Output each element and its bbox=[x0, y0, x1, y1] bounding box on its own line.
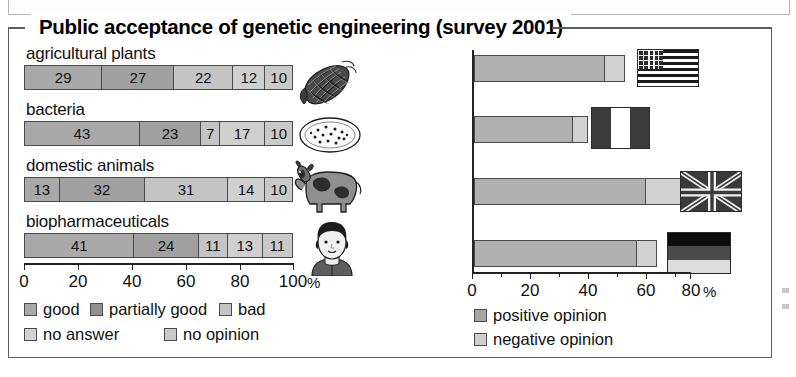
left-axis-tick-80 bbox=[240, 263, 241, 270]
left-axis-label-80: 80 bbox=[230, 272, 250, 292]
legend-swatch-no-opinion bbox=[164, 328, 177, 341]
category-label-biopharmaceuticals: biopharmaceuticals bbox=[26, 212, 169, 232]
segment-negative-opinion bbox=[637, 240, 657, 267]
right-axis-tick-70 bbox=[675, 272, 676, 277]
stacked-bar-bacteria: 43 23 7 17 10 bbox=[24, 121, 293, 146]
left-axis-label-40: 40 bbox=[122, 272, 142, 292]
segment-positive-opinion bbox=[474, 116, 573, 143]
legend-label-positive-opinion: positive opinion bbox=[493, 306, 607, 325]
flag-usa-icon bbox=[637, 49, 699, 87]
country-bar-uk bbox=[474, 178, 684, 205]
segment-negative-opinion bbox=[605, 55, 625, 82]
country-bar-usa bbox=[474, 55, 625, 82]
category-label-domestic-animals: domestic animals bbox=[26, 156, 154, 176]
segment-no-opinion: 11 bbox=[263, 234, 292, 257]
right-axis-tick-40 bbox=[588, 272, 589, 279]
legend-label-no-answer: no answer bbox=[43, 325, 119, 344]
left-axis-label-100: 100 bbox=[276, 272, 310, 292]
segment-bad: 11 bbox=[199, 234, 228, 257]
segment-no-answer: 14 bbox=[228, 178, 265, 201]
right-axis-label-40: 40 bbox=[578, 281, 598, 301]
left-axis-line bbox=[24, 263, 294, 265]
right-axis-tick-80 bbox=[690, 272, 691, 279]
segment-positive-opinion bbox=[474, 178, 646, 205]
legend-swatch-negative-opinion bbox=[474, 333, 487, 346]
legend-item-positive-opinion: positive opinion bbox=[474, 306, 607, 325]
legend-label-no-opinion: no opinion bbox=[183, 325, 259, 344]
legend-swatch-partially-good bbox=[90, 303, 103, 316]
right-axis-line bbox=[472, 272, 691, 274]
segment-no-opinion: 10 bbox=[265, 178, 292, 201]
segment-bad: 22 bbox=[174, 66, 233, 89]
right-axis-tick-30 bbox=[559, 272, 560, 277]
right-axis-tick-20 bbox=[530, 272, 531, 279]
segment-good: 29 bbox=[25, 66, 102, 89]
stacked-bar-biopharmaceuticals: 41 24 11 13 11 bbox=[24, 233, 293, 258]
country-bar-france bbox=[474, 116, 588, 143]
legend-item-no-answer: no answer bbox=[24, 325, 119, 344]
segment-positive-opinion bbox=[474, 55, 605, 82]
left-axis-tick-40 bbox=[132, 263, 133, 270]
figure-title: Public acceptance of genetic engineering… bbox=[31, 13, 571, 41]
legend-item-good: good bbox=[24, 300, 80, 319]
left-axis-tick-100 bbox=[293, 263, 294, 270]
right-axis-label-60: 60 bbox=[636, 281, 656, 301]
segment-partially-good: 27 bbox=[102, 66, 174, 89]
flag-germany-icon bbox=[667, 232, 731, 274]
stacked-bar-domestic-animals: 13 32 31 14 10 bbox=[24, 177, 293, 202]
segment-no-answer: 17 bbox=[220, 122, 265, 145]
petri-dish-icon bbox=[298, 114, 362, 156]
left-axis-unit: % bbox=[307, 274, 320, 291]
segment-good: 13 bbox=[25, 178, 60, 201]
right-axis-vertical bbox=[472, 50, 474, 272]
flag-uk-icon bbox=[680, 171, 742, 212]
left-axis-label-20: 20 bbox=[68, 272, 88, 292]
legend-item-bad: bad bbox=[219, 300, 266, 319]
legend-label-negative-opinion: negative opinion bbox=[493, 330, 613, 349]
segment-no-answer: 12 bbox=[233, 66, 265, 89]
segment-no-opinion: 10 bbox=[265, 122, 292, 145]
right-axis-tick-60 bbox=[646, 272, 647, 279]
legend-swatch-bad bbox=[219, 303, 232, 316]
right-axis-unit: % bbox=[703, 283, 716, 300]
cow-icon bbox=[292, 160, 364, 218]
legend-swatch-no-answer bbox=[24, 328, 37, 341]
stacked-bar-agricultural-plants: 29 27 22 12 10 bbox=[24, 65, 293, 90]
left-axis-tick-20 bbox=[78, 263, 79, 270]
segment-negative-opinion bbox=[646, 178, 684, 205]
acceptance-by-application-chart: agricultural plants 29 27 22 12 10 bbox=[14, 42, 444, 352]
legend-item-partially-good: partially good bbox=[90, 300, 207, 319]
corn-cob-icon bbox=[296, 58, 358, 106]
legend-label-good: good bbox=[43, 300, 80, 319]
segment-good: 41 bbox=[25, 234, 134, 257]
segment-bad: 7 bbox=[201, 122, 220, 145]
category-label-agricultural-plants: agricultural plants bbox=[26, 44, 155, 64]
segment-positive-opinion bbox=[474, 240, 637, 267]
legend-item-negative-opinion: negative opinion bbox=[474, 330, 613, 349]
legend-label-partially-good: partially good bbox=[109, 300, 207, 319]
right-axis-label-80: 80 bbox=[679, 281, 703, 301]
segment-bad: 31 bbox=[145, 178, 228, 201]
left-axis-tick-60 bbox=[186, 263, 187, 270]
legend-item-no-opinion: no opinion bbox=[164, 325, 259, 344]
legend-swatch-positive-opinion bbox=[474, 309, 487, 322]
segment-no-answer: 13 bbox=[228, 234, 263, 257]
segment-good: 43 bbox=[25, 122, 140, 145]
opinion-by-country-chart: 0 20 40 60 80 % positive opinion negativ… bbox=[455, 42, 785, 352]
segment-partially-good: 32 bbox=[60, 178, 145, 201]
right-axis-tick-50 bbox=[617, 272, 618, 277]
right-axis-label-20: 20 bbox=[520, 281, 540, 301]
segment-no-opinion: 10 bbox=[265, 66, 292, 89]
right-axis-tick-10 bbox=[501, 272, 502, 277]
segment-partially-good: 23 bbox=[140, 122, 201, 145]
segment-partially-good: 24 bbox=[134, 234, 198, 257]
country-bar-germany bbox=[474, 240, 657, 267]
flag-france-icon bbox=[591, 107, 650, 149]
left-axis-label-60: 60 bbox=[176, 272, 196, 292]
segment-negative-opinion bbox=[573, 116, 588, 143]
legend-label-bad: bad bbox=[238, 300, 266, 319]
left-axis-label-0: 0 bbox=[14, 272, 34, 292]
right-axis-tick-0 bbox=[472, 272, 473, 279]
category-label-bacteria: bacteria bbox=[26, 100, 85, 120]
right-axis-label-0: 0 bbox=[462, 281, 482, 301]
